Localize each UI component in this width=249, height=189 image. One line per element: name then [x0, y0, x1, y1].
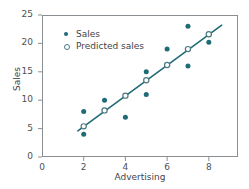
- predicted-sales-point: [185, 46, 190, 51]
- chart-legend: Sales Predicted sales: [62, 28, 144, 52]
- sales-point: [165, 47, 170, 52]
- sales-point: [102, 98, 107, 103]
- predicted-sales-point: [144, 78, 149, 83]
- sales-point: [185, 24, 190, 29]
- x-tick-label: 2: [74, 162, 94, 172]
- sales-point: [81, 132, 86, 137]
- y-tick-label: 25: [11, 9, 33, 19]
- y-tick-label: 20: [11, 37, 33, 47]
- sales-point: [185, 64, 190, 69]
- open-circle-marker-icon: [62, 41, 72, 51]
- predicted-sales-point: [102, 108, 107, 113]
- legend-item-sales: Sales: [62, 28, 144, 40]
- sales-point: [144, 92, 149, 97]
- filled-circle-marker-icon: [62, 29, 72, 39]
- sales-point: [123, 115, 128, 120]
- y-axis-title: Sales: [12, 49, 22, 109]
- y-tick-label: 5: [11, 123, 33, 133]
- x-axis-title: Advertising: [42, 172, 238, 182]
- sales-point: [81, 109, 86, 114]
- x-tick-label: 8: [199, 162, 219, 172]
- sales-point: [206, 40, 211, 45]
- predicted-sales-point: [206, 32, 211, 37]
- x-tick-label: 4: [115, 162, 135, 172]
- x-axis-ticks: [84, 157, 209, 161]
- predicted-sales-point: [123, 93, 128, 98]
- legend-item-predicted-sales: Predicted sales: [62, 40, 144, 52]
- y-axis-ticks: [38, 15, 42, 157]
- predicted-sales-point: [165, 62, 170, 67]
- predicted-sales-point: [81, 124, 86, 129]
- legend-label-sales: Sales: [76, 29, 100, 39]
- y-tick-label: 0: [11, 151, 33, 161]
- scatter-chart: 0510152025 02468 Sales Advertising Sales…: [0, 0, 249, 189]
- x-tick-label: 6: [157, 162, 177, 172]
- legend-label-predicted-sales: Predicted sales: [76, 41, 144, 51]
- x-tick-label: 0: [32, 162, 52, 172]
- sales-point: [144, 69, 149, 74]
